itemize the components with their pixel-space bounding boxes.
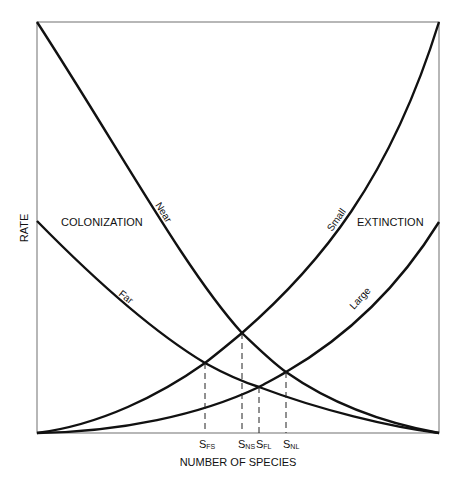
- extinction-label: EXTINCTION: [357, 216, 424, 228]
- colonization-label: COLONIZATION: [61, 216, 143, 228]
- far-curve-label: Far: [117, 288, 136, 306]
- y-axis-label: RATE: [18, 214, 30, 243]
- tick-sfl: SFL: [256, 438, 272, 450]
- large-curve-label: Large: [347, 285, 373, 312]
- tick-sns: SNS: [238, 438, 255, 450]
- island-biogeography-chart: RATE NUMBER OF SPECIES COLONIZATION EXTI…: [0, 0, 458, 483]
- tick-snl: SNL: [283, 438, 299, 450]
- tick-sfs: SFS: [199, 438, 216, 450]
- x-axis-label: NUMBER OF SPECIES: [180, 456, 297, 468]
